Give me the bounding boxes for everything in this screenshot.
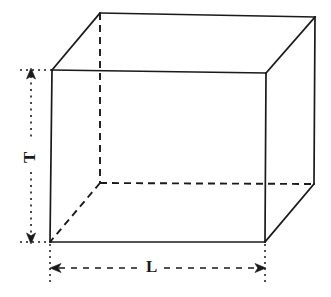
edge-front-right: [265, 73, 266, 242]
cuboid-hidden-edges: [50, 13, 314, 242]
edge-front-left: [50, 70, 52, 242]
edge-bottom-right-receding: [265, 184, 314, 242]
edge-top-right-receding: [266, 17, 315, 73]
height-label: T: [20, 151, 39, 163]
edge-back-top: [100, 13, 315, 17]
height-dimension-group: T: [20, 68, 54, 244]
cuboid-figure: T L: [0, 0, 331, 297]
length-label: L: [146, 257, 158, 276]
length-arrowhead-right: [255, 264, 266, 273]
edge-bottom-left-receding-hidden: [50, 183, 100, 242]
edge-back-bottom-hidden: [100, 183, 314, 184]
length-dimension-group: L: [50, 244, 266, 286]
edge-top-left-receding: [52, 13, 100, 70]
edge-front-top: [52, 70, 266, 73]
cuboid-diagram: T L: [0, 0, 331, 297]
edge-back-right-vertical: [314, 17, 315, 184]
cuboid-visible-edges: [50, 13, 315, 242]
